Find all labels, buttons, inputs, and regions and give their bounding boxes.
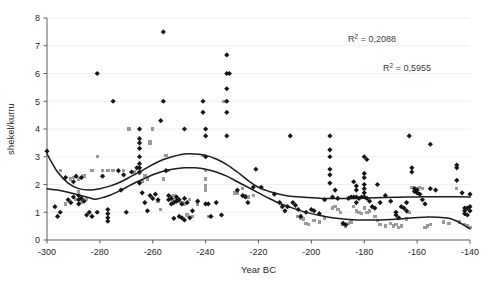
svg-text:1: 1 (35, 208, 40, 218)
svg-text:2: 2 (35, 180, 40, 190)
x-axis-title: Year BC (241, 264, 276, 275)
svg-text:-140: -140 (461, 247, 479, 257)
chart-canvas: 012345678 -300-280-260-240-220-200-180-1… (0, 0, 489, 293)
svg-text:-220: -220 (249, 247, 267, 257)
svg-text:6: 6 (35, 69, 40, 79)
svg-text:-240: -240 (197, 247, 215, 257)
svg-text:-160: -160 (408, 247, 426, 257)
svg-text:8: 8 (35, 13, 40, 23)
gridlines (47, 18, 470, 212)
x-tick-labels: -300-280-260-240-220-200-180-160-140 (38, 247, 479, 257)
y-tick-labels: 012345678 (35, 13, 40, 245)
data-series-gray-squares (59, 100, 472, 230)
svg-text:0: 0 (35, 235, 40, 245)
svg-text:5: 5 (35, 97, 40, 107)
svg-text:-280: -280 (91, 247, 109, 257)
r2-lower: R2 = 0,5955 (383, 62, 431, 73)
svg-text:4: 4 (35, 124, 40, 134)
svg-text:-260: -260 (144, 247, 162, 257)
r2-annotations: R2 = 0,2088R2 = 0,5955 (348, 33, 431, 73)
scatter-chart: 012345678 -300-280-260-240-220-200-180-1… (0, 0, 489, 293)
svg-text:-200: -200 (302, 247, 320, 257)
svg-text:-180: -180 (355, 247, 373, 257)
svg-text:7: 7 (35, 41, 40, 51)
trendlines (47, 154, 470, 229)
y-axis-title: shekel/kurru (5, 103, 16, 155)
r2-upper: R2 = 0,2088 (348, 33, 396, 44)
svg-text:3: 3 (35, 152, 40, 162)
svg-text:-300: -300 (38, 247, 56, 257)
